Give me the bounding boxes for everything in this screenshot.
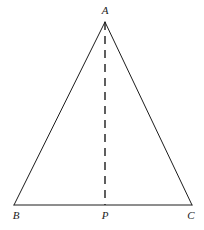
geometry-figure-canvas: A B P C: [0, 0, 204, 230]
vertex-label-b: B: [13, 210, 20, 221]
vertex-label-a: A: [102, 5, 109, 16]
vertex-label-p: P: [102, 210, 109, 221]
segment-ac: [105, 22, 192, 205]
triangle-diagram-svg: [0, 0, 204, 230]
vertex-label-c: C: [187, 210, 194, 221]
segment-ab: [14, 22, 105, 205]
